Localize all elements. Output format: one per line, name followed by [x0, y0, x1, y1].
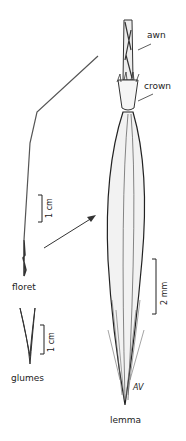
- glumes-scale-label: 1 cm: [47, 332, 56, 352]
- label-lemma: lemma: [110, 415, 141, 425]
- crown: [118, 80, 138, 110]
- floret-body: [23, 240, 26, 276]
- lemma-body: [107, 112, 144, 405]
- crown-leader: [138, 94, 153, 101]
- awn-leader: [138, 44, 151, 50]
- glumes-scale-bar: [40, 325, 44, 354]
- arrow: [44, 218, 92, 248]
- label-glumes: glumes: [11, 373, 44, 383]
- label-floret: floret: [12, 282, 36, 292]
- floret-awn: [24, 56, 98, 240]
- floret-scale-label: 1 cm: [45, 198, 54, 218]
- artist-signature: AV: [133, 383, 144, 392]
- botanical-illustration: awn crown floret glumes lemma 1 cm 1 cm …: [0, 0, 186, 441]
- label-awn: awn: [147, 30, 166, 40]
- arrow-head: [87, 215, 96, 222]
- label-crown: crown: [144, 81, 171, 91]
- lemma-scale-bar: [152, 259, 156, 314]
- floret-scale-bar: [38, 195, 42, 222]
- glumes-drawing: [20, 308, 35, 364]
- lemma-awn: [123, 20, 133, 80]
- lemma-scale-label: 2 mm: [160, 282, 169, 305]
